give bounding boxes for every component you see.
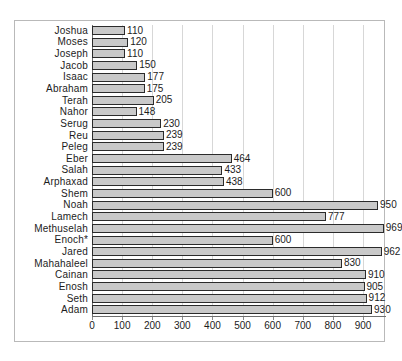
bar-row: Adam930 bbox=[92, 304, 386, 316]
bar-row: Shem600 bbox=[92, 188, 386, 200]
x-tick-label: 700 bbox=[294, 321, 311, 331]
bar-value-label: 600 bbox=[275, 188, 292, 198]
category-label: Mahahaleel bbox=[34, 259, 88, 269]
bar-value-label: 150 bbox=[139, 60, 156, 70]
bar[interactable]: 930 bbox=[92, 305, 372, 314]
x-tick-label: 900 bbox=[355, 321, 372, 331]
x-tick-label: 600 bbox=[264, 321, 281, 331]
bar[interactable]: 239 bbox=[92, 131, 164, 140]
x-tick-label: 800 bbox=[325, 321, 342, 331]
bar-row: Joseph110 bbox=[92, 48, 386, 60]
category-label: Jacob bbox=[60, 61, 88, 71]
bar[interactable]: 148 bbox=[92, 107, 137, 116]
category-label: Seth bbox=[67, 294, 88, 304]
bar-row: Jacob150 bbox=[92, 60, 386, 72]
bar[interactable]: 177 bbox=[92, 73, 145, 82]
bar-value-label: 962 bbox=[384, 247, 401, 257]
bar-row: Jared962 bbox=[92, 246, 386, 258]
bar-row: Reu239 bbox=[92, 130, 386, 142]
bar-row: Cainan910 bbox=[92, 269, 386, 281]
category-label: Abraham bbox=[46, 84, 88, 94]
bar-value-label: 912 bbox=[369, 293, 386, 303]
bar[interactable]: 464 bbox=[92, 154, 232, 163]
category-label: Serug bbox=[60, 119, 88, 129]
bar-value-label: 239 bbox=[166, 130, 183, 140]
x-tick-label: 100 bbox=[114, 321, 131, 331]
category-label: Methuselah bbox=[34, 224, 88, 234]
bar-value-label: 910 bbox=[368, 270, 385, 280]
category-label: Lamech bbox=[51, 212, 88, 222]
bar[interactable]: 600 bbox=[92, 236, 273, 245]
chart-frame: Joshua110Moses120Joseph110Jacob150Isaac1… bbox=[14, 20, 385, 342]
bar-value-label: 438 bbox=[226, 177, 243, 187]
plot-area: Joshua110Moses120Joseph110Jacob150Isaac1… bbox=[92, 25, 386, 316]
bar-value-label: 120 bbox=[130, 37, 147, 47]
bar-value-label: 230 bbox=[163, 119, 180, 129]
bar[interactable]: 912 bbox=[92, 294, 367, 303]
category-label: Arphaxad bbox=[44, 177, 88, 187]
bar-value-label: 433 bbox=[224, 165, 241, 175]
bar-rows: Joshua110Moses120Joseph110Jacob150Isaac1… bbox=[92, 25, 386, 316]
bar-value-label: 930 bbox=[374, 305, 391, 315]
bar[interactable]: 110 bbox=[92, 26, 125, 35]
x-tick-label: 300 bbox=[174, 321, 191, 331]
bar-row: Salah433 bbox=[92, 165, 386, 177]
bar[interactable]: 600 bbox=[92, 189, 273, 198]
bar-row: Terah205 bbox=[92, 95, 386, 107]
bar-row: Lamech777 bbox=[92, 211, 386, 223]
bar[interactable]: 175 bbox=[92, 84, 145, 93]
bar-value-label: 177 bbox=[147, 72, 164, 82]
bar-row: Abraham175 bbox=[92, 83, 386, 95]
bar-value-label: 464 bbox=[234, 154, 251, 164]
bar[interactable]: 433 bbox=[92, 166, 222, 175]
bar[interactable]: 110 bbox=[92, 49, 125, 58]
bar-row: Arphaxad438 bbox=[92, 176, 386, 188]
category-label: Adam bbox=[61, 305, 88, 315]
bar-value-label: 110 bbox=[127, 49, 143, 59]
category-label: Joshua bbox=[55, 26, 88, 36]
bar-value-label: 148 bbox=[139, 107, 156, 117]
bar-value-label: 175 bbox=[147, 84, 164, 94]
bar-value-label: 969 bbox=[386, 223, 402, 233]
bar[interactable]: 239 bbox=[92, 142, 164, 151]
x-axis-ticks: 0100200300400500600700800900 bbox=[92, 317, 386, 337]
bar-row: Nahor148 bbox=[92, 106, 386, 118]
category-label: Reu bbox=[69, 131, 88, 141]
bar-row: Serug230 bbox=[92, 118, 386, 130]
category-label: Peleg bbox=[61, 142, 88, 152]
bar[interactable]: 150 bbox=[92, 61, 137, 70]
category-label: Cainan bbox=[55, 270, 88, 280]
category-label: Shem bbox=[61, 189, 88, 199]
category-label: Joseph bbox=[55, 49, 88, 59]
bar-value-label: 905 bbox=[367, 282, 384, 292]
bar-row: Methuselah969 bbox=[92, 223, 386, 235]
bar[interactable]: 830 bbox=[92, 259, 342, 268]
category-label: Nahor bbox=[60, 107, 88, 117]
bar[interactable]: 438 bbox=[92, 177, 224, 186]
category-label: Jared bbox=[62, 247, 88, 257]
x-tick-label: 0 bbox=[89, 321, 95, 331]
bar-row: Enosh905 bbox=[92, 281, 386, 293]
bar[interactable]: 777 bbox=[92, 212, 326, 221]
bar[interactable]: 910 bbox=[92, 270, 366, 279]
x-tick-label: 200 bbox=[144, 321, 161, 331]
bar[interactable]: 120 bbox=[92, 38, 128, 47]
bar[interactable]: 962 bbox=[92, 247, 382, 256]
bar[interactable]: 230 bbox=[92, 119, 161, 128]
bar-row: Isaac177 bbox=[92, 72, 386, 84]
bar[interactable]: 950 bbox=[92, 201, 378, 210]
category-label: Eber bbox=[66, 154, 88, 164]
bar[interactable]: 969 bbox=[92, 224, 384, 233]
bar[interactable]: 205 bbox=[92, 96, 154, 105]
bar-row: Enoch*600 bbox=[92, 235, 386, 247]
bar-row: Eber464 bbox=[92, 153, 386, 165]
category-label: Salah bbox=[61, 165, 88, 175]
bar-row: Moses120 bbox=[92, 37, 386, 49]
bar-row: Mahahaleel830 bbox=[92, 258, 386, 270]
bar-row: Seth912 bbox=[92, 293, 386, 305]
x-tick-label: 400 bbox=[204, 321, 221, 331]
bar-value-label: 239 bbox=[166, 142, 183, 152]
bar[interactable]: 905 bbox=[92, 282, 365, 291]
bar-value-label: 830 bbox=[344, 258, 361, 268]
category-label: Terah bbox=[62, 96, 88, 106]
